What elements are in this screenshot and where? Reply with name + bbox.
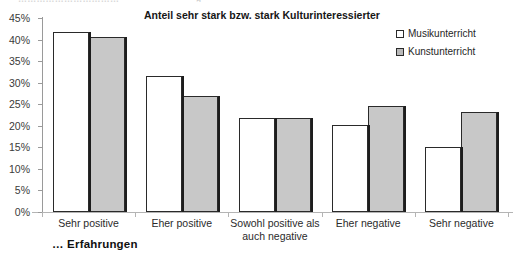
category-label: Sowohl positive als auch negative [228,217,321,243]
bar [239,118,275,212]
y-axis-tick-label: 15% [9,141,30,153]
category-label: Eher negative [322,217,415,230]
bar [53,32,89,212]
y-axis-tick-label: 25% [9,98,30,110]
plot-area [42,18,508,212]
y-axis-tick-label: 20% [9,120,30,132]
axis-note: … Erfahrungen [52,238,138,250]
y-axis-labels: 0%5%10%15%20%25%30%35%40%45% [0,0,42,258]
x-axis-line [32,212,513,213]
y-axis-tick-label: 40% [9,34,30,46]
bar [332,125,368,212]
bar [368,106,404,212]
y-axis-tick-label: 0% [15,206,30,218]
bar-group [146,18,218,212]
bar-chart: Anteil sehr stark bzw. stark Kulturinter… [0,0,515,258]
y-axis-tick-label: 35% [9,55,30,67]
bar [182,96,218,212]
y-axis-tick-label: 45% [9,12,30,24]
category-label: Sehr positive [42,217,135,230]
bar [89,37,125,212]
chart-screenshot: …………………………… g Anteil sehr stark bzw. sta… [0,0,515,258]
category-labels: Sehr positiveEher positiveSowohl positiv… [42,217,508,257]
y-axis-tick-label: 5% [15,184,30,196]
y-axis-tick-label: 30% [9,77,30,89]
y-axis-tick-label: 10% [9,163,30,175]
category-label: Eher positive [135,217,228,230]
bar-group [239,18,311,212]
bar [461,112,497,212]
bar-group [425,18,497,212]
bar [425,147,461,212]
bar [275,118,311,212]
bar [146,76,182,212]
bar-group [53,18,125,212]
bar-group [332,18,404,212]
category-label: Sehr negative [415,217,508,230]
x-axis-separator [508,212,509,217]
